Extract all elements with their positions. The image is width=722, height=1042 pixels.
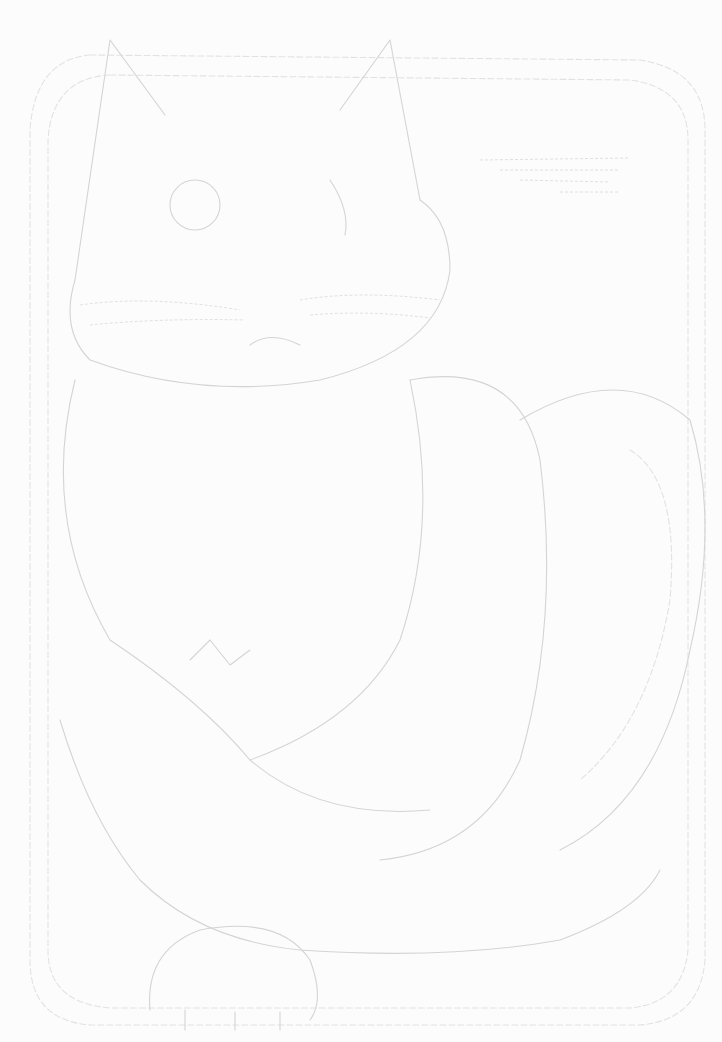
front-leg [60, 720, 660, 953]
inner-frame [48, 75, 688, 1008]
left-ear [75, 40, 165, 280]
tail-inner [580, 450, 672, 780]
right-eye [330, 180, 346, 235]
haunch [380, 377, 547, 860]
outer-frame [30, 55, 705, 1025]
head [70, 200, 450, 387]
paw [150, 926, 318, 1030]
cat-sketch [0, 0, 722, 1042]
whiskers-right [300, 295, 440, 318]
nose [250, 338, 300, 346]
whiskers-left [80, 301, 245, 325]
right-ear [340, 40, 420, 200]
note-scribbles [480, 158, 630, 192]
body [63, 380, 430, 811]
left-eye [170, 180, 220, 230]
chest-fur [190, 640, 250, 665]
sketch-canvas [0, 0, 722, 1042]
tail [520, 390, 705, 850]
chest [250, 380, 423, 760]
